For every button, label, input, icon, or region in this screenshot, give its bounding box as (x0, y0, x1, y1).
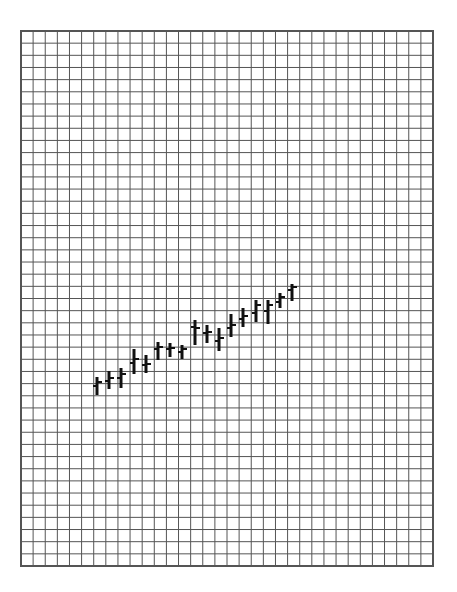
chart-background (0, 0, 457, 592)
ohlc-chart (0, 0, 457, 592)
